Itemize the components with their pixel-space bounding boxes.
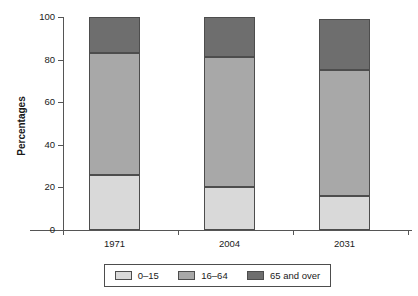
x-axis-tick — [178, 230, 179, 235]
legend-label: 16–64 — [201, 270, 227, 281]
y-axis-tick-label: 60 — [26, 97, 55, 107]
y-axis-tick-label: 80 — [26, 55, 55, 65]
x-axis-tick — [293, 230, 294, 235]
x-axis-category-label: 2031 — [315, 238, 375, 249]
y-axis-title: Percentages — [14, 20, 28, 232]
legend-swatch — [247, 271, 264, 280]
y-axis-tick-label: 0 — [26, 225, 55, 235]
y-axis-tick-label-text: 0 — [29, 225, 55, 235]
y-axis-tick-label-text: 60 — [29, 97, 55, 107]
bar-segment — [204, 57, 255, 187]
bar-segment — [319, 196, 370, 230]
y-axis-tick-label-text: 20 — [29, 182, 55, 192]
legend-swatch — [115, 271, 132, 280]
x-axis-category-label: 1971 — [85, 238, 145, 249]
bar-group — [89, 0, 140, 230]
y-axis-tick-label-text: 80 — [29, 55, 55, 65]
legend-label: 65 and over — [270, 270, 320, 281]
legend-item: 16–64 — [178, 270, 227, 281]
bar-segment — [204, 187, 255, 230]
y-axis-tick-label-text: 40 — [29, 140, 55, 150]
y-axis-title-label: Percentages — [16, 96, 27, 155]
chart-legend: 0–1516–6465 and over — [104, 264, 331, 287]
legend-swatch — [178, 271, 195, 280]
y-axis-line — [63, 17, 64, 231]
bar-segment — [89, 17, 140, 53]
bar-segment — [89, 175, 140, 230]
x-axis-tick — [408, 230, 409, 235]
x-axis-tick — [63, 230, 64, 235]
y-axis-tick — [58, 60, 63, 61]
y-axis-tick-label: 20 — [26, 182, 55, 192]
bar-segment — [319, 19, 370, 70]
y-axis-tick — [58, 17, 63, 18]
bar-segment — [89, 53, 140, 174]
stacked-bar-chart: Percentages 020406080100 197120042031 0–… — [0, 0, 418, 296]
x-axis-line — [30, 230, 412, 231]
y-axis-tick — [58, 187, 63, 188]
bar-group — [319, 0, 370, 230]
x-axis-category-label: 2004 — [200, 238, 260, 249]
bar-group — [204, 0, 255, 230]
y-axis-tick-label: 40 — [26, 140, 55, 150]
y-axis-tick — [58, 145, 63, 146]
y-axis-tick-label-text: 100 — [29, 12, 55, 22]
y-axis-tick — [58, 102, 63, 103]
bar-segment — [319, 70, 370, 196]
legend-label: 0–15 — [138, 270, 159, 281]
legend-item: 65 and over — [247, 270, 320, 281]
bar-segment — [204, 17, 255, 57]
legend-item: 0–15 — [115, 270, 159, 281]
y-axis-tick-label: 100 — [26, 12, 55, 22]
